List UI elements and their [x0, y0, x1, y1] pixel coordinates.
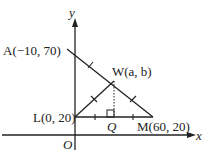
- origin-label: O: [63, 138, 72, 151]
- geometry-diagram: y x O A(−10, 70) W(a, b) L(0, 20) M(60, …: [0, 0, 203, 152]
- point-Q-label: Q: [107, 120, 116, 133]
- y-axis: [72, 18, 78, 150]
- point-M-label: M(60, 20): [137, 120, 190, 133]
- point-W-label: W(a, b): [112, 65, 152, 78]
- point-L-label: L(0, 20): [33, 111, 76, 124]
- point-A-label: A(−10, 70): [3, 44, 61, 57]
- x-axis-label: x: [196, 129, 202, 142]
- right-angle-marker: [107, 110, 114, 117]
- segment-AM: [67, 49, 153, 117]
- y-axis-label: y: [69, 6, 75, 19]
